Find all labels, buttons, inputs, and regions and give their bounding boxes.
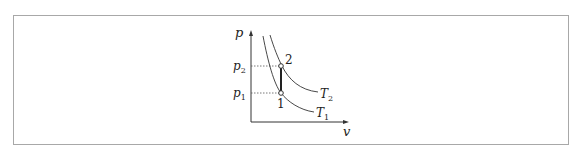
isotherm-t1-curve [263, 36, 314, 112]
t1-label: T1 [316, 106, 329, 122]
x-axis-label: v [343, 124, 351, 139]
isotherm-t2-curve [270, 35, 318, 92]
y-axis-arrow-icon [249, 30, 253, 36]
point-2-label: 2 [285, 53, 293, 67]
point-1-label: 1 [277, 97, 285, 111]
state-point-1 [279, 91, 284, 96]
p1-label: p1 [233, 86, 246, 102]
t2-label: T2 [320, 87, 333, 103]
pv-diagram: p v p2 p1 2 1 T2 T1 [0, 0, 580, 158]
y-axis-label: p [235, 25, 244, 40]
p2-label: p2 [233, 59, 246, 75]
state-point-2 [279, 64, 284, 69]
